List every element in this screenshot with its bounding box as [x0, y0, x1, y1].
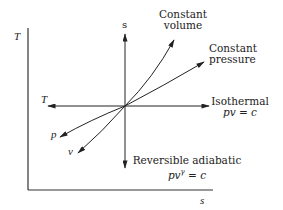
s-up-label: s: [122, 19, 127, 30]
t-axis-label: T: [14, 31, 20, 42]
adiabatic-equation: pvγ = c: [131, 167, 243, 181]
isothermal-equation: pv = c: [210, 107, 270, 118]
t-left-label: T: [41, 94, 47, 105]
v-label: v: [68, 146, 73, 157]
constant-volume-line2: volume: [154, 20, 212, 31]
isothermal-label: Isothermal pv = c: [210, 96, 270, 118]
ts-diagram: T s s T p v Constant volume Constant pre…: [0, 0, 283, 210]
adiabatic-eq-a: pv: [168, 169, 181, 181]
p-label: p: [51, 129, 57, 140]
isothermal-eq-a: pv: [223, 106, 236, 118]
v-arrow: [78, 106, 125, 153]
constant-pressure-arrow: [125, 62, 204, 106]
constant-volume-arrow: [125, 40, 174, 106]
adiabatic-line1: Reversible adiabatic: [131, 155, 243, 166]
p-arrow: [60, 106, 125, 137]
constant-volume-label: Constant volume: [154, 9, 212, 31]
adiabatic-eq-b: = c: [185, 169, 206, 181]
constant-pressure-line2: pressure: [209, 54, 257, 65]
adiabatic-label: Reversible adiabatic pvγ = c: [131, 155, 243, 181]
constant-pressure-label: Constant pressure: [209, 43, 257, 65]
isothermal-eq-b: = c: [236, 106, 257, 118]
s-axis-label: s: [200, 195, 204, 206]
